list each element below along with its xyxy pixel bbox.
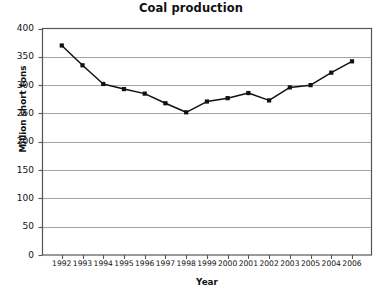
data-point-2003 — [288, 85, 292, 89]
data-point-1995 — [122, 87, 126, 91]
data-point-1992 — [60, 43, 64, 47]
data-point-2005 — [308, 83, 312, 87]
gridlines — [43, 58, 372, 228]
coal-production-chart: Coal production Million short tons 05010… — [0, 0, 382, 301]
data-point-1996 — [143, 92, 147, 96]
x-axis-tick-marks — [63, 255, 353, 259]
data-point-1998 — [184, 110, 188, 114]
data-point-1993 — [80, 63, 84, 67]
data-point-2006 — [350, 59, 354, 63]
data-point-1997 — [163, 101, 167, 105]
data-point-2004 — [329, 71, 333, 75]
data-point-1994 — [101, 82, 105, 86]
data-point-markers — [60, 43, 354, 114]
data-point-1999 — [205, 99, 209, 103]
x-axis-title: Year — [42, 277, 372, 287]
data-point-2002 — [267, 98, 271, 102]
data-point-2001 — [246, 91, 250, 95]
plot-area — [0, 0, 382, 301]
plot-frame — [43, 29, 372, 256]
data-point-2000 — [226, 96, 230, 100]
